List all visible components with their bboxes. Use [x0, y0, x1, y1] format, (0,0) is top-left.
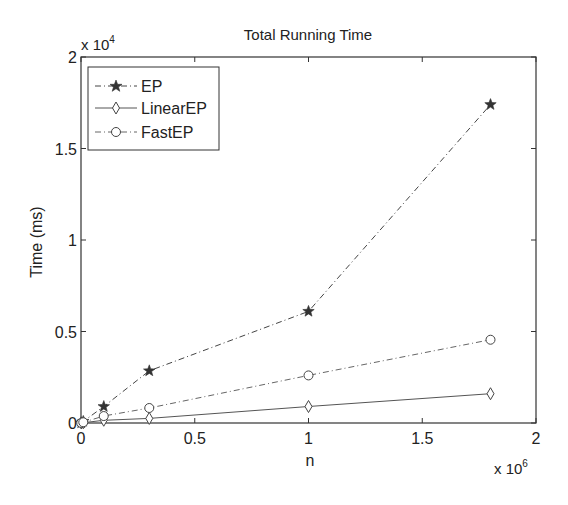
circle-marker-icon [304, 371, 313, 380]
circle-marker-icon [486, 335, 495, 344]
chart-canvas: Total Running Time x 104 00.511.52 00.51… [0, 0, 568, 505]
x-tick-label: 0 [77, 430, 86, 447]
y-tick-labels: 00.511.52 [55, 49, 77, 432]
x-tick-label: 2 [532, 430, 541, 447]
x-axis-label: n [306, 452, 315, 469]
diamond-marker-icon [487, 388, 494, 400]
legend: EP LinearEP FastEP [88, 67, 219, 150]
circle-marker-icon [112, 128, 121, 137]
svg-text:EP: EP [141, 78, 162, 95]
x-axis-multiplier: x 106 [494, 458, 528, 477]
y-tick-label: 0.5 [55, 324, 77, 341]
svg-text:LinearEP: LinearEP [141, 100, 207, 117]
y-tick-label: 1.5 [55, 141, 77, 158]
x-tick-labels: 00.511.52 [77, 430, 541, 447]
x-tick-label: 1 [304, 430, 313, 447]
chart-title: Total Running Time [244, 26, 372, 43]
circle-marker-icon [99, 412, 108, 421]
circle-marker-icon [79, 418, 88, 427]
y-axis-label: Time (ms) [28, 206, 45, 277]
y-tick-label: 0 [68, 415, 77, 432]
x-tick-label: 0.5 [184, 430, 206, 447]
diamond-marker-icon [305, 401, 312, 413]
y-tick-label: 2 [68, 49, 77, 66]
y-axis-multiplier: x 104 [81, 34, 115, 53]
star-marker-icon [485, 99, 496, 110]
y-tick-label: 1 [68, 232, 77, 249]
svg-text:FastEP: FastEP [141, 124, 193, 141]
series-fastep [77, 335, 495, 427]
x-tick-label: 1.5 [411, 430, 433, 447]
circle-marker-icon [145, 403, 154, 412]
